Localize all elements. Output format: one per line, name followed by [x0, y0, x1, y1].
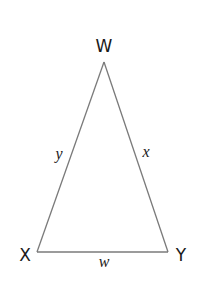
vertex-label-w: W	[96, 36, 113, 56]
side-xw	[37, 62, 104, 252]
side-label-y: y	[53, 145, 63, 163]
side-label-w: w	[99, 253, 110, 270]
side-label-x: x	[141, 143, 149, 160]
vertex-label-y: Y	[175, 245, 187, 265]
triangle-diagram: W X Y y x w	[0, 0, 198, 282]
vertex-label-x: X	[19, 245, 31, 265]
side-wy	[104, 62, 168, 252]
